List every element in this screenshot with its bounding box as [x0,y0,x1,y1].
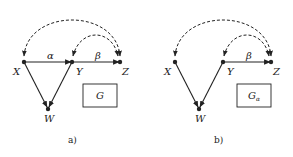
edge-x-w [175,62,198,107]
edge-y-w [49,62,72,107]
edge-label-alpha: α [47,50,54,61]
edge-x-w [24,62,47,107]
node-y [70,60,74,64]
node-label-y: Y [227,66,235,77]
edge-y-w [200,62,223,107]
node-w [197,107,201,111]
node-label-x: X [163,66,172,77]
graph-label: G [96,90,104,101]
node-x [22,60,26,64]
node-label-z: Z [121,66,130,77]
panel-b: X Y Z W β Gα b) [163,20,281,145]
panel-a: X Y Z W α β G a) [12,20,130,145]
bidirected-edge-x-z [24,20,120,56]
edge-label-beta: β [94,50,101,61]
causal-diagrams: X Y Z W α β G a) X Y Z W β Gα b) [0,0,293,157]
node-label-w: W [44,113,55,124]
panel-caption-a: a) [68,135,77,145]
bidirected-edge-x-z [175,20,271,56]
edge-label-beta: β [245,50,252,61]
node-label-y: Y [76,66,84,77]
node-w [46,107,50,111]
node-z [269,60,273,64]
node-label-x: X [12,66,21,77]
node-x [173,60,177,64]
node-y [221,60,225,64]
node-label-z: Z [272,66,281,77]
graph-label-subscript: α [256,95,260,102]
graph-label: Gα [248,90,260,102]
panel-caption-b: b) [214,135,223,145]
node-z [118,60,122,64]
node-label-w: W [195,113,206,124]
